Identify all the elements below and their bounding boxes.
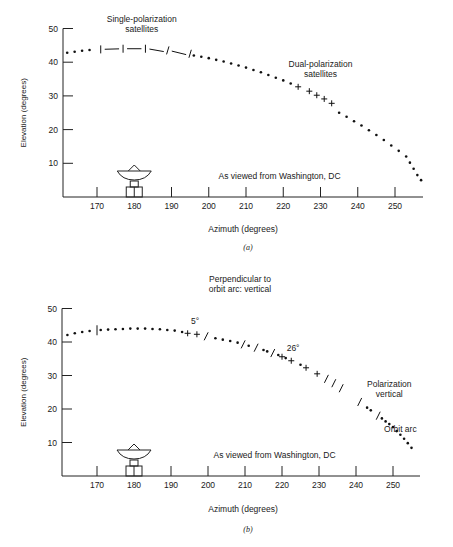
orbit-dot xyxy=(207,57,210,60)
orbit-dot xyxy=(338,111,341,114)
series-tick-dash xyxy=(101,45,192,58)
pol-dash xyxy=(172,51,186,55)
orbit-dot xyxy=(410,447,413,450)
orbit-dot xyxy=(390,144,393,147)
orbit-dot xyxy=(193,54,196,57)
orbit-dot xyxy=(392,426,395,429)
orbit-dot xyxy=(405,155,408,158)
orbit-dot xyxy=(282,79,285,82)
x-tick-label: 170 xyxy=(90,480,104,490)
series-cross xyxy=(185,330,321,377)
orbit-dot xyxy=(166,329,169,332)
orbit-dot xyxy=(403,438,406,441)
caption: (a) xyxy=(243,243,253,252)
orbit-dot xyxy=(345,115,348,118)
orbit-dot xyxy=(412,167,415,170)
orbit-dot xyxy=(81,49,84,52)
orbit-dot xyxy=(129,327,132,330)
orbit-dot xyxy=(388,423,391,426)
chart-title: orbit arc: vertical xyxy=(209,284,271,294)
y-axis-label: Elevation (degrees) xyxy=(19,78,28,148)
series-dot xyxy=(66,327,413,449)
series-dot xyxy=(66,49,422,182)
y-tick-label: 30 xyxy=(49,91,59,101)
orbit-dot xyxy=(416,174,419,177)
orbit-dot xyxy=(88,330,91,333)
orbit-dot xyxy=(399,433,402,436)
orbit-dot xyxy=(360,124,363,127)
orbit-dot xyxy=(247,344,250,347)
x-tick-label: 200 xyxy=(202,201,216,211)
orbit-dot xyxy=(381,417,384,420)
orbit-dot xyxy=(395,430,398,433)
orbit-dot xyxy=(420,179,423,182)
chart-a: 1020304050170180190200210220230240250Azi… xyxy=(19,14,423,252)
annotation: Dual-polarization xyxy=(289,59,353,69)
orbit-dot xyxy=(144,327,147,330)
slash-marker xyxy=(324,375,328,383)
annotation: As viewed from Washington, DC xyxy=(214,450,336,460)
slash-marker xyxy=(204,332,208,340)
x-tick-label: 190 xyxy=(164,480,178,490)
orbit-dot xyxy=(370,409,373,412)
x-tick-label: 250 xyxy=(388,201,402,211)
x-tick-label: 180 xyxy=(127,480,141,490)
orbit-dot xyxy=(277,354,280,357)
annotation: 26° xyxy=(287,343,300,353)
x-tick-label: 230 xyxy=(313,201,327,211)
orbit-dot xyxy=(289,82,292,85)
orbit-dot xyxy=(66,51,69,54)
orbit-dot xyxy=(245,66,248,69)
orbit-dot xyxy=(159,328,162,331)
series-cross xyxy=(295,84,335,107)
orbit-dot xyxy=(384,420,387,423)
figure: 1020304050170180190200210220230240250Azi… xyxy=(0,0,453,547)
slash-marker xyxy=(339,384,343,392)
y-tick-label: 40 xyxy=(49,57,59,67)
slash-marker xyxy=(241,340,245,348)
slash-marker xyxy=(332,379,336,387)
orbit-dot xyxy=(122,328,125,331)
y-tick-label: 40 xyxy=(48,337,58,347)
orbit-dot xyxy=(236,341,239,344)
x-tick-label: 210 xyxy=(239,201,253,211)
annotation: 5° xyxy=(191,316,199,326)
x-tick-label: 230 xyxy=(312,480,326,490)
x-tick-label: 200 xyxy=(201,480,215,490)
x-tick-label: 220 xyxy=(275,480,289,490)
orbit-dot xyxy=(222,60,225,63)
x-axis-label: Azimuth (degrees) xyxy=(208,504,278,514)
pol-tick xyxy=(189,50,191,58)
orbit-dot xyxy=(260,71,263,74)
chart-title: Perpendicular to xyxy=(209,274,271,284)
orbit-dot xyxy=(353,120,356,123)
orbit-dot xyxy=(74,332,77,335)
y-tick-label: 50 xyxy=(48,304,58,314)
x-tick-label: 240 xyxy=(349,480,363,490)
orbit-dot xyxy=(383,139,386,142)
annotation: vertical xyxy=(376,389,403,399)
pol-dash xyxy=(149,49,163,52)
orbit-dot xyxy=(409,161,412,164)
x-tick-label: 250 xyxy=(386,480,400,490)
slash-marker xyxy=(376,412,380,420)
orbit-dot xyxy=(262,349,265,352)
annotation: As viewed from Washington, DC xyxy=(219,171,341,181)
x-tick-label: 210 xyxy=(238,480,252,490)
x-tick-label: 190 xyxy=(164,201,178,211)
orbit-dot xyxy=(237,64,240,67)
y-tick-label: 50 xyxy=(49,24,59,34)
orbit-dot xyxy=(299,363,302,366)
orbit-dot xyxy=(136,327,139,330)
orbit-dot xyxy=(222,338,225,341)
orbit-dot xyxy=(368,129,371,132)
orbit-dot xyxy=(275,76,278,79)
orbit-dot xyxy=(88,49,91,52)
x-tick-label: 170 xyxy=(90,201,104,211)
annotation: satellites xyxy=(304,69,337,79)
annotation: Single-polarization xyxy=(107,14,177,24)
y-tick-label: 20 xyxy=(49,125,59,135)
pol-tick xyxy=(167,46,169,54)
orbit-dot xyxy=(267,74,270,77)
orbit-dot xyxy=(375,134,378,137)
